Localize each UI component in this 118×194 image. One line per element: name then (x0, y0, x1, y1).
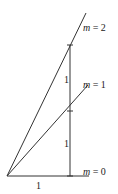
label-m2: m = 2 (83, 23, 106, 33)
line-m2 (7, 13, 86, 176)
rise-label-lower: 1 (64, 139, 69, 149)
label-m0: m = 0 (83, 167, 106, 177)
label-m1: m = 1 (83, 80, 106, 90)
run-label: 1 (36, 181, 41, 191)
line-m1 (7, 85, 88, 176)
rise-label-upper: 1 (64, 75, 69, 85)
